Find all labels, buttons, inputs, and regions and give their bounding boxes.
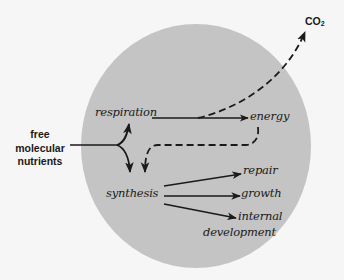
energy-label: energy bbox=[250, 111, 289, 123]
nutrients-label-line-3: nutrients bbox=[12, 155, 68, 169]
growth-label: growth bbox=[241, 188, 281, 200]
cell-circle bbox=[81, 24, 311, 268]
respiration-label: respiration bbox=[95, 107, 157, 119]
nutrients-label-line-1: free bbox=[12, 128, 68, 142]
nutrients-label-line-2: molecular bbox=[12, 142, 68, 156]
nutrients-label: free molecular nutrients bbox=[12, 128, 68, 169]
co2-label: CO2 bbox=[305, 15, 325, 27]
internal-development-label-line-2: development bbox=[203, 227, 276, 239]
co2-label-base: CO bbox=[305, 15, 321, 27]
co2-label-subscript: 2 bbox=[321, 20, 325, 27]
diagram-stage: free molecular nutrients respiration ene… bbox=[0, 0, 344, 280]
synthesis-label: synthesis bbox=[106, 188, 158, 200]
internal-development-label-line-1: internal bbox=[238, 211, 282, 223]
repair-label: repair bbox=[243, 165, 278, 177]
